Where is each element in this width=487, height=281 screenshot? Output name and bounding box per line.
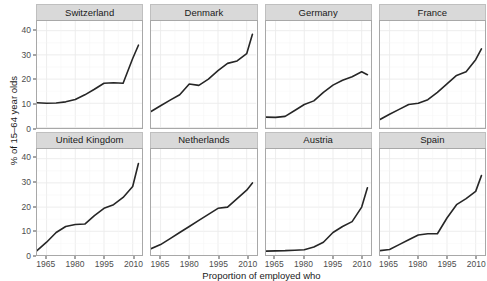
- x-axis-column-3: 1965198019952010: [265, 256, 372, 272]
- x-tick-label: 1980: [66, 259, 85, 269]
- series-line-switzerland: [37, 21, 142, 128]
- y-axis-bottom-row: 010203040: [0, 148, 36, 257]
- facet-panel-switzerland: Switzerland: [36, 4, 143, 129]
- facet-panel-united-kingdom: United Kingdom: [36, 132, 143, 257]
- y-tick-mark: [33, 103, 36, 104]
- plot-area-netherlands: [150, 148, 257, 257]
- plot-area-united-kingdom: [36, 148, 143, 257]
- x-tick-label: 1980: [294, 259, 313, 269]
- y-tick-label: 10: [22, 226, 31, 236]
- facet-panel-austria: Austria: [265, 132, 372, 257]
- x-tick-label: 1995: [438, 259, 457, 269]
- plot-area-denmark: [150, 20, 257, 129]
- plot-area-france: [379, 20, 486, 129]
- facet-strip-germany: Germany: [265, 4, 372, 20]
- facet-grid: Switzerland Denmark Germany France Unite: [36, 4, 486, 256]
- x-axis-column-1: 1965198019952010: [36, 256, 143, 272]
- y-tick-mark: [33, 206, 36, 207]
- series-line-france: [380, 21, 485, 128]
- y-tick-label: 40: [22, 152, 31, 162]
- series-line-austria: [266, 149, 371, 256]
- facet-strip-spain: Spain: [379, 132, 486, 148]
- x-tick-label: 1965: [151, 259, 170, 269]
- facet-panel-denmark: Denmark: [150, 4, 257, 129]
- y-tick-mark: [33, 29, 36, 30]
- facet-panel-netherlands: Netherlands: [150, 132, 257, 257]
- y-tick-label: 0: [26, 124, 31, 134]
- facet-panel-france: France: [379, 4, 486, 129]
- facet-strip-denmark: Denmark: [150, 4, 257, 20]
- facet-strip-switzerland: Switzerland: [36, 4, 143, 20]
- y-tick-mark: [33, 79, 36, 80]
- x-tick-label: 1995: [95, 259, 114, 269]
- plot-area-austria: [265, 148, 372, 257]
- facet-strip-united-kingdom: United Kingdom: [36, 132, 143, 148]
- x-tick-label: 2010: [467, 259, 486, 269]
- series-line-denmark: [151, 21, 256, 128]
- x-tick-label: 1995: [323, 259, 342, 269]
- y-tick-mark: [33, 231, 36, 232]
- y-tick-label: 30: [22, 177, 31, 187]
- facet-strip-france: France: [379, 4, 486, 20]
- y-axis-top-row: 010203040: [0, 20, 36, 129]
- series-line-spain: [380, 149, 485, 256]
- x-tick-label: 1995: [209, 259, 228, 269]
- facet-strip-austria: Austria: [265, 132, 372, 148]
- x-tick-label: 1980: [408, 259, 427, 269]
- y-tick-label: 10: [22, 99, 31, 109]
- plot-area-spain: [379, 148, 486, 257]
- y-tick-mark: [33, 182, 36, 183]
- x-axis-column-4: 1965198019952010: [379, 256, 486, 272]
- y-tick-label: 20: [22, 202, 31, 212]
- series-line-germany: [266, 21, 371, 128]
- x-axis-column-2: 1965198019952010: [150, 256, 257, 272]
- x-tick-label: 1965: [379, 259, 398, 269]
- y-tick-label: 30: [22, 50, 31, 60]
- facet-panel-spain: Spain: [379, 132, 486, 257]
- y-tick-mark: [33, 128, 36, 129]
- facet-strip-netherlands: Netherlands: [150, 132, 257, 148]
- x-tick-label: 2010: [238, 259, 257, 269]
- facet-panel-germany: Germany: [265, 4, 372, 129]
- plot-area-germany: [265, 20, 372, 129]
- x-tick-label: 2010: [353, 259, 372, 269]
- y-tick-mark: [33, 157, 36, 158]
- x-tick-label: 1965: [36, 259, 55, 269]
- y-tick-label: 40: [22, 25, 31, 35]
- x-tick-label: 1980: [180, 259, 199, 269]
- x-tick-label: 1965: [265, 259, 284, 269]
- series-line-united-kingdom: [37, 149, 142, 256]
- series-line-netherlands: [151, 149, 256, 256]
- y-tick-label: 0: [26, 251, 31, 261]
- y-tick-label: 20: [22, 74, 31, 84]
- y-tick-mark: [33, 54, 36, 55]
- x-tick-label: 2010: [124, 259, 143, 269]
- plot-area-switzerland: [36, 20, 143, 129]
